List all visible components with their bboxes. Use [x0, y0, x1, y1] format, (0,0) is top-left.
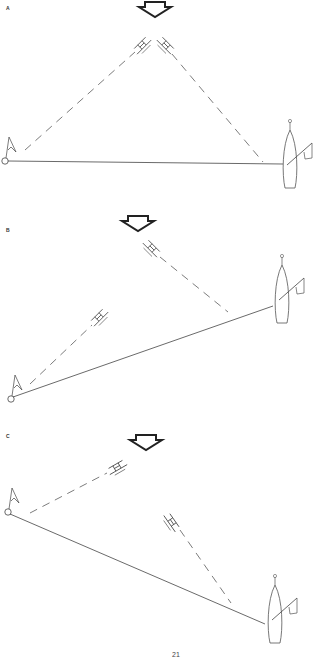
wind-arrow-icon [122, 216, 154, 231]
wind-arrow-icon [139, 2, 171, 17]
wind-arrow-icon [130, 435, 162, 450]
starting-line [8, 161, 283, 164]
buoy-icon [5, 488, 19, 515]
sailboat-icon [90, 308, 111, 329]
committee-boat-icon [275, 254, 304, 323]
race-diagrams [0, 0, 322, 662]
buoy-icon [8, 375, 22, 402]
course-line [160, 257, 228, 312]
course-line [30, 325, 92, 384]
panel-a [2, 2, 312, 188]
course-line [30, 473, 107, 513]
panel-b [8, 216, 304, 402]
panel-c [5, 435, 297, 643]
course-line [180, 530, 231, 603]
buoy-icon [2, 137, 16, 164]
course-line [25, 52, 135, 150]
starting-line [10, 514, 265, 624]
sailboat-icon [161, 512, 180, 534]
course-line [172, 54, 263, 162]
sailboat-icon [141, 239, 162, 260]
sailboat-icon [133, 36, 154, 57]
sailboat-icon [107, 459, 129, 477]
starting-line [13, 306, 273, 397]
committee-boat-icon [283, 119, 312, 188]
committee-boat-icon [268, 574, 297, 643]
sailboat-icon [155, 36, 176, 57]
